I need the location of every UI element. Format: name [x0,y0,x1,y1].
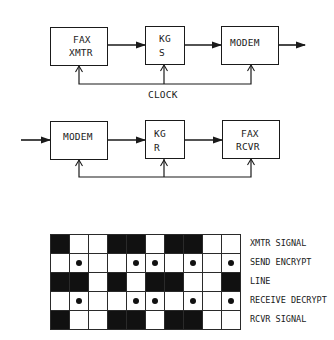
signal-cell [51,311,70,330]
signal-row-label: XMTR SIGNAL [250,238,306,248]
signal-cell [222,254,241,273]
signal-cell [184,273,203,292]
signal-row [51,311,241,330]
encrypt-bit-dot-icon [152,298,158,304]
signal-cell [89,273,108,292]
signal-cell [184,235,203,254]
signal-cell [127,254,146,273]
signal-cell [127,311,146,330]
encrypt-bit-dot-icon [190,260,196,266]
signal-cell [146,235,165,254]
signal-row [51,273,241,292]
signal-row [51,292,241,311]
signal-cell [70,235,89,254]
signal-cell [51,235,70,254]
signal-row-label: LINE [250,276,270,286]
signal-cell [222,292,241,311]
signal-cell [165,292,184,311]
encrypt-bit-dot-icon [133,298,139,304]
signal-cell [165,311,184,330]
signal-cell [70,292,89,311]
signal-grid [50,234,241,330]
signal-cell [165,254,184,273]
block-label-line2: R [154,142,160,154]
signal-cell [184,292,203,311]
block-label-line1: FAX [241,128,259,140]
encrypt-bit-dot-icon [228,298,234,304]
signal-cell [127,235,146,254]
block-fax-rcvr: FAX RCVR [222,120,280,159]
signal-cell [89,292,108,311]
block-modem-rx: MODEM [50,121,108,160]
encrypt-bit-dot-icon [76,298,82,304]
block-kg-s: KG S [145,26,185,65]
encrypt-bit-dot-icon [152,260,158,266]
signal-cell [222,235,241,254]
signal-cell [51,273,70,292]
signal-row [51,235,241,254]
block-kg-r: KG R [145,120,185,159]
signal-cell [70,254,89,273]
signal-cell [108,292,127,311]
block-label-line1: KG [154,128,166,140]
signal-cell [146,273,165,292]
signal-cell [89,235,108,254]
signal-cell [165,235,184,254]
signal-row-label: SEND ENCRYPT [250,257,311,267]
signal-cell [108,235,127,254]
encrypt-bit-dot-icon [190,298,196,304]
block-label-line2: XMTR [69,47,93,59]
signal-cell [184,311,203,330]
signal-cell [203,235,222,254]
signal-row-label: RCVR SIGNAL [250,314,306,324]
block-label-line1: FAX [73,34,91,46]
signal-cell [108,254,127,273]
signal-cell [203,292,222,311]
block-label-line1: MODEM [230,37,260,49]
signal-cell [146,292,165,311]
signal-cell [70,273,89,292]
signal-cell [203,311,222,330]
block-label-line2: S [159,47,165,59]
signal-cell [108,311,127,330]
signal-row-label: RECEIVE DECRYPT [250,295,327,305]
signal-cell [108,273,127,292]
signal-cell [51,254,70,273]
block-fax-xmtr: FAX XMTR [50,27,108,66]
signal-cell [127,273,146,292]
signal-cell [203,273,222,292]
block-modem-tx: MODEM [221,26,279,65]
signal-cell [70,311,89,330]
signal-cell [146,311,165,330]
block-label-line1: KG [159,33,171,45]
signal-cell [51,292,70,311]
signal-cell [203,254,222,273]
signal-cell [89,254,108,273]
encrypt-bit-dot-icon [133,260,139,266]
block-label-line2: RCVR [236,141,260,153]
encrypt-bit-dot-icon [76,260,82,266]
encrypt-bit-dot-icon [228,260,234,266]
signal-cell [222,273,241,292]
signal-cell [127,292,146,311]
signal-cell [222,311,241,330]
signal-cell [146,254,165,273]
signal-cell [184,254,203,273]
signal-row [51,254,241,273]
clock-label: CLOCK [148,89,178,101]
signal-cell [89,311,108,330]
signal-cell [165,273,184,292]
block-label-line1: MODEM [63,131,93,143]
